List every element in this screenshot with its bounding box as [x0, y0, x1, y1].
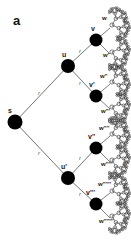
fractal-node-d1-0 [124, 178, 126, 180]
fractal-node-d1-0 [120, 176, 122, 178]
fractal-node-d1-1 [117, 38, 119, 40]
node-label-v-prime3: v''' [86, 189, 95, 196]
fractal-node-d1-0 [125, 62, 127, 64]
figure-panel: a r r r r r r [0, 0, 131, 245]
edge-label-u-prime-v-prime2: r [79, 155, 82, 161]
fractal-node-d1-1 [116, 64, 118, 66]
fractal-node-d1-1 [125, 204, 127, 206]
node-label-v-prime2: v'' [88, 133, 96, 140]
node-label-w3: w'' [99, 73, 108, 79]
fractal-node-d1-0 [128, 82, 130, 84]
fractal-node-d1-1 [125, 20, 127, 22]
node-label-v-prime: v' [89, 81, 95, 88]
fractal-node-d1-0 [114, 116, 116, 118]
fractal-node-d1-1 [121, 146, 123, 148]
fractal-node-d1-1 [126, 59, 128, 61]
fractal-node-d1-1 [126, 199, 128, 201]
fractal-node-d1-0 [126, 197, 128, 199]
node-label-w4: w''' [100, 108, 111, 114]
fractal-node-d1-0 [119, 229, 121, 231]
fractal-node-d1-1 [126, 223, 128, 225]
fractal-node-d1-0 [124, 69, 126, 71]
fractal-node-d1-0 [126, 113, 128, 115]
fractal-node-d1-1 [127, 54, 129, 56]
fractal-node-d1-1 [125, 70, 127, 72]
node-v-prime3 [90, 198, 103, 211]
fractal-node-d1-1 [125, 13, 127, 15]
fractal-node-d1-1 [125, 40, 127, 42]
fractal-node-d1-1 [128, 80, 130, 82]
fractal-node-d1-1 [125, 148, 127, 150]
fractal-node-d5-1 [117, 192, 121, 196]
node-label-w2: w' [102, 52, 110, 58]
fractal-node-d1-0 [114, 173, 116, 175]
fractal-node-d1-0 [110, 8, 112, 10]
fractal-node-d1-0 [124, 12, 126, 14]
node-label-w8: w''''''' [98, 218, 114, 224]
fractal-node-d1-1 [129, 27, 131, 29]
fractal-node-d1-1 [124, 228, 126, 230]
panel-label: a [13, 13, 21, 28]
fractal-node-d1-1 [108, 67, 110, 69]
fractal-node-d1-1 [129, 136, 131, 138]
fractal-node-d1-1 [121, 38, 123, 40]
fractal-node-d1-1 [121, 202, 123, 204]
fractal-node-d1-0 [129, 103, 131, 105]
fractal-node-d1-1 [126, 90, 128, 92]
fractal-node-d1-0 [122, 229, 124, 231]
fractal-node-d1-0 [114, 7, 116, 9]
node-label-v: v [91, 25, 95, 32]
fractal-node-d1-1 [124, 172, 126, 174]
fractal-node-d1-0 [125, 117, 127, 119]
fractal-node-d1-0 [129, 156, 131, 158]
fractal-node-d1-1 [126, 184, 128, 186]
fractal-node-d1-0 [126, 166, 128, 168]
fractal-node-d1-1 [128, 132, 130, 134]
fractal-node-d1-0 [128, 160, 130, 162]
fractal-node-d4-1 [122, 157, 125, 160]
fractal-node-d1-1 [121, 93, 123, 95]
node-label-u: u [62, 51, 66, 58]
fractal-node-d1-1 [126, 167, 128, 169]
fractal-node-d1-0 [119, 117, 121, 119]
fractal-node-d1-0 [126, 206, 128, 208]
fractal-node-d1-1 [128, 210, 130, 212]
fractal-node-d4-0 [122, 134, 125, 137]
node-label-s: s [8, 107, 12, 114]
fractal-node-d1-1 [117, 93, 119, 95]
fractal-node-d1-0 [129, 212, 131, 214]
fractal-node-d1-0 [123, 20, 125, 22]
fractal-node-d4-0 [122, 25, 125, 28]
node-v-prime2 [90, 142, 103, 155]
fractal-node-d1-0 [126, 16, 128, 18]
node-label-u-prime: u' [61, 163, 67, 170]
fractal-node-d4-1 [122, 104, 125, 107]
fractal-node-d1-0 [120, 67, 122, 69]
fractal-node-d1-1 [126, 18, 128, 20]
fractal-node-d1-0 [125, 226, 127, 228]
fractal-node-d1-0 [126, 150, 128, 152]
fractal-node-d1-1 [127, 109, 129, 111]
fractal-node-d1-0 [122, 65, 124, 67]
fractal-node-d1-1 [125, 122, 127, 124]
fractal-node-d1-1 [123, 36, 125, 38]
fractal-node-d5-1 [117, 83, 121, 87]
fractal-node-d1-1 [108, 227, 110, 229]
fractal-node-d1-1 [116, 116, 118, 118]
fractal-node-d1-1 [125, 186, 127, 188]
fractal-node-d1-0 [127, 187, 129, 189]
fractal-node-d1-0 [128, 191, 130, 193]
fractal-node-d1-0 [126, 222, 128, 224]
fractal-node-d1-1 [128, 46, 130, 48]
fractal-node-d1-0 [126, 182, 128, 184]
fractal-node-d1-1 [114, 232, 116, 234]
fractal-node-d1-1 [119, 122, 121, 124]
fractal-node-d1-0 [108, 178, 110, 180]
node-s [8, 115, 23, 130]
fractal-node-d1-1 [116, 173, 118, 175]
fractal-node-d1-0 [126, 58, 128, 60]
fractal-node-d1-0 [127, 130, 129, 132]
fractal-node-d1-1 [126, 127, 128, 129]
fractal-node-d1-1 [119, 231, 121, 233]
fractal-node-d1-1 [112, 116, 114, 118]
